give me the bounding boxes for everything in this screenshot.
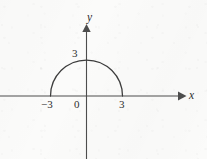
coordinate-plane-plot	[0, 0, 207, 159]
x-axis-label: x	[189, 90, 194, 102]
x-axis-arrowhead	[178, 92, 187, 101]
y-axis-label: y	[87, 12, 92, 24]
x-tick-label-3: 3	[119, 99, 125, 110]
origin-label: 0	[74, 99, 80, 110]
graph-figure: y x 3 −3 0 3	[0, 0, 207, 159]
x-tick-label-negative-3: −3	[41, 99, 53, 110]
y-axis-arrowhead	[82, 24, 90, 32]
y-tick-label-3: 3	[72, 48, 78, 59]
